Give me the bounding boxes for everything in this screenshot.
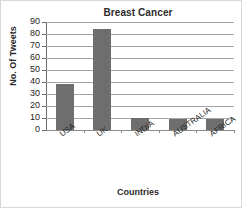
x-axis-tick: [121, 130, 122, 133]
y-axis-tick: [42, 34, 46, 35]
gridline: [46, 94, 234, 95]
x-axis-tick: [159, 130, 160, 133]
y-axis-tick-label: 90: [14, 17, 40, 26]
y-axis-tick-label: 10: [14, 113, 40, 122]
gridline: [46, 34, 234, 35]
y-axis-tick: [42, 94, 46, 95]
gridline: [46, 58, 234, 59]
y-axis-tick-label: 30: [14, 89, 40, 98]
y-axis-tick-label: 0: [14, 125, 40, 134]
x-axis-tick-labels: USAUKINDIAAUSTRALIAAFRICA: [46, 131, 241, 183]
gridline: [46, 22, 234, 23]
gridline: [46, 82, 234, 83]
x-axis-tick: [84, 130, 85, 133]
bar: [93, 29, 111, 130]
y-axis-tick-labels: 0102030405060708090: [12, 1, 40, 208]
gridline: [46, 70, 234, 71]
y-axis-tick: [42, 82, 46, 83]
y-axis-tick: [42, 118, 46, 119]
y-axis-tick-label: 70: [14, 41, 40, 50]
y-axis-tick: [42, 46, 46, 47]
y-axis-tick: [42, 106, 46, 107]
bar-chart-figure: Breast Cancer No. Of Tweets 010203040506…: [0, 0, 242, 208]
y-axis-tick: [42, 58, 46, 59]
y-axis-tick-label: 40: [14, 77, 40, 86]
x-axis-tick: [196, 130, 197, 133]
x-axis-title: Countries: [35, 187, 241, 197]
y-axis-tick: [42, 70, 46, 71]
y-axis-tick-label: 20: [14, 101, 40, 110]
y-axis-tick-label: 80: [14, 29, 40, 38]
y-axis-tick-label: 60: [14, 53, 40, 62]
y-axis-tick-label: 50: [14, 65, 40, 74]
y-axis-tick: [42, 22, 46, 23]
y-axis-tick: [42, 130, 46, 131]
x-axis-tick: [234, 130, 235, 133]
chart-title: Breast Cancer: [35, 7, 241, 19]
gridline: [46, 46, 234, 47]
